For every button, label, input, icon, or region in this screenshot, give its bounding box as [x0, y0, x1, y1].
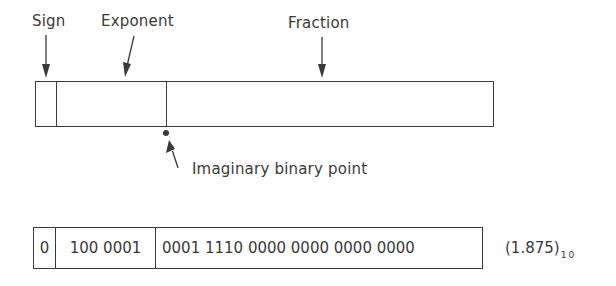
- exponent-field: [57, 82, 167, 126]
- format-layout-box: [35, 81, 494, 127]
- decimal-value-number: (1.875): [505, 239, 560, 257]
- exponent-arrow-icon: [123, 36, 134, 77]
- decimal-value: (1.875)10: [505, 239, 576, 260]
- example-exponent-bits: 100 0001: [56, 228, 156, 268]
- example-fraction-bits: 0001 1110 0000 0000 0000 0000: [156, 228, 482, 268]
- decimal-base-subscript: 10: [561, 250, 576, 260]
- fraction-arrow-icon: [318, 37, 326, 78]
- example-encoding-box: 0 100 0001 0001 1110 0000 0000 0000 0000: [33, 227, 483, 269]
- sign-arrow-icon: [42, 35, 50, 78]
- fraction-field: [167, 82, 493, 126]
- sign-field: [36, 82, 57, 126]
- binary-point-label: Imaginary binary point: [192, 160, 367, 178]
- example-sign-bits: 0: [34, 228, 56, 268]
- binary-point-dot-icon: [163, 130, 169, 136]
- binary-point-arrow-icon: [166, 140, 178, 168]
